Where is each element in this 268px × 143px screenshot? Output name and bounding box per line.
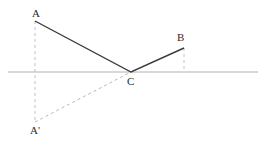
point-label-b: B bbox=[177, 32, 184, 43]
reflected-ray-a-prime-to-c bbox=[35, 72, 131, 122]
solid-path-a-c-b bbox=[35, 21, 184, 72]
point-label-a-prime: A' bbox=[30, 125, 40, 136]
point-label-a: A bbox=[32, 8, 40, 19]
figure-canvas bbox=[0, 0, 268, 143]
point-label-c: C bbox=[127, 76, 134, 87]
geometry-figure: A B C A' bbox=[0, 0, 268, 143]
